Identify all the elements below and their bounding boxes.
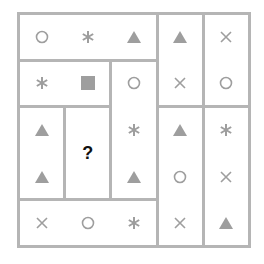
triangle-icon — [157, 14, 203, 61]
puzzle-grid: ? — [17, 12, 248, 245]
triangle-icon — [19, 107, 65, 154]
cross-icon — [203, 14, 249, 61]
triangle-icon — [157, 107, 203, 154]
circle-icon — [157, 153, 203, 200]
asterisk-icon — [65, 14, 111, 61]
triangle-icon — [111, 153, 157, 200]
circle-icon — [203, 60, 249, 107]
asterisk-icon — [203, 107, 249, 154]
asterisk-icon — [111, 107, 157, 154]
cross-icon — [157, 200, 203, 247]
triangle-icon — [19, 153, 65, 200]
circle-icon — [19, 14, 65, 61]
cross-icon — [19, 200, 65, 247]
triangle-icon — [203, 200, 249, 247]
square-icon — [65, 60, 111, 107]
cross-icon — [157, 60, 203, 107]
circle-icon — [111, 60, 157, 107]
triangle-icon — [111, 14, 157, 61]
circle-icon — [65, 200, 111, 247]
question-mark: ? — [65, 107, 111, 200]
asterisk-icon — [111, 200, 157, 247]
asterisk-icon — [19, 60, 65, 107]
cross-icon — [203, 153, 249, 200]
